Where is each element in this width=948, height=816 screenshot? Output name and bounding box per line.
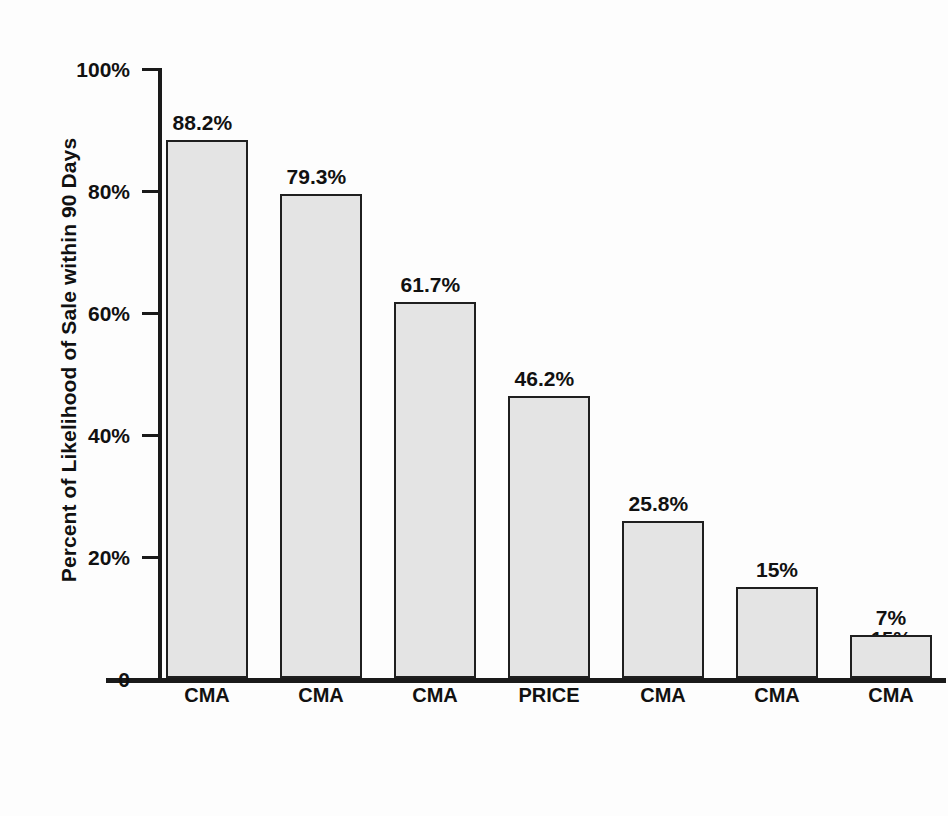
x-category-line: CMA bbox=[150, 681, 264, 709]
bar-value-label: 46.2% bbox=[515, 367, 575, 391]
bar-4[interactable]: 25.8% bbox=[622, 521, 704, 678]
bar-value-label: 15% bbox=[756, 558, 798, 582]
y-tick-100: 100% bbox=[142, 68, 158, 71]
y-tick-label: 60% bbox=[88, 302, 130, 326]
x-category-line: CMA bbox=[264, 681, 378, 709]
y-tick-mark bbox=[142, 190, 158, 193]
y-axis-title-text: Percent of Likelihood of Sale within 90 … bbox=[57, 138, 81, 582]
bar-value-label: 79.3% bbox=[287, 165, 347, 189]
x-category-line: CMA bbox=[720, 681, 834, 709]
y-axis-line bbox=[158, 68, 162, 678]
x-category-line: CMA bbox=[834, 681, 948, 709]
y-tick-label: 0 bbox=[118, 668, 130, 692]
bar-0[interactable]: 88.2% bbox=[166, 140, 248, 678]
y-tick-mark bbox=[142, 312, 158, 315]
bar-value-label: 25.8% bbox=[629, 492, 689, 516]
y-tick-label: 80% bbox=[88, 180, 130, 204]
bar-6[interactable]: 7% bbox=[850, 635, 932, 678]
y-tick-80: 80% bbox=[142, 190, 158, 193]
x-category-line: CMA bbox=[378, 681, 492, 709]
y-tick-20: 20% bbox=[142, 556, 158, 559]
bar-value-label: 7% bbox=[876, 606, 906, 630]
y-tick-40: 40% bbox=[142, 434, 158, 437]
y-tick-mark bbox=[142, 434, 158, 437]
bar-value-label: 88.2% bbox=[173, 111, 233, 135]
y-tick-mark bbox=[142, 68, 158, 71]
y-tick-mark bbox=[142, 556, 158, 559]
bar-2[interactable]: 61.7% bbox=[394, 302, 476, 678]
bar-3[interactable]: 46.2% bbox=[508, 396, 590, 678]
bar-value-label: 61.7% bbox=[401, 273, 461, 297]
y-tick-label: 40% bbox=[88, 424, 130, 448]
y-axis-title: Percent of Likelihood of Sale within 90 … bbox=[46, 40, 92, 680]
y-tick-label: 100% bbox=[76, 58, 130, 82]
bar-1[interactable]: 79.3% bbox=[280, 194, 362, 678]
x-category-line: CMA bbox=[606, 681, 720, 709]
y-tick-label: 20% bbox=[88, 546, 130, 570]
y-tick-60: 60% bbox=[142, 312, 158, 315]
bar-5[interactable]: 15% bbox=[736, 587, 818, 679]
x-category-line: PRICE bbox=[492, 681, 606, 709]
